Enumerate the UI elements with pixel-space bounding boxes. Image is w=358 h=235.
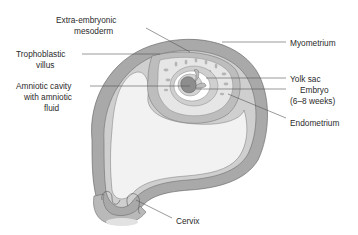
gestational-sac (148, 52, 241, 123)
label-cervix: Cervix (176, 216, 200, 226)
label-extra-embryonic-2: mesoderm (74, 26, 113, 36)
label-extra-embryonic-1: Extra-embryonic (56, 15, 116, 25)
uterus-embryo-diagram: Extra-embryonic mesoderm Trophoblastic v… (0, 0, 358, 235)
cervix-opening (106, 218, 138, 226)
label-amniotic-3: fluid (44, 103, 60, 113)
label-myometrium: Myometrium (290, 38, 336, 48)
label-yolk-sac: Yolk sac (290, 74, 321, 84)
label-amniotic-1: Amniotic cavity (16, 81, 72, 91)
label-trophoblastic-1: Trophoblastic (16, 49, 66, 59)
label-embryo-2: (6–8 weeks) (290, 96, 335, 106)
label-trophoblastic-2: villus (36, 60, 54, 70)
embryo (181, 77, 196, 93)
label-embryo-1: Embryo (300, 85, 329, 95)
label-endometrium: Endometrium (290, 118, 339, 128)
label-amniotic-2: with amniotic (23, 92, 72, 102)
